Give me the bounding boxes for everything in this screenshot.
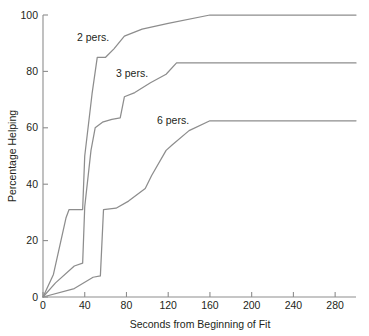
y-tick-label: 80 bbox=[26, 65, 38, 77]
y-tick-label: 20 bbox=[26, 234, 38, 246]
series-label: 6 pers. bbox=[157, 114, 189, 126]
x-tick-label: 160 bbox=[201, 299, 219, 311]
x-tick-label: 240 bbox=[285, 299, 303, 311]
x-tick-label: 200 bbox=[243, 299, 261, 311]
x-tick-label: 40 bbox=[79, 299, 91, 311]
x-tick-label: 120 bbox=[159, 299, 177, 311]
x-tick-label: 280 bbox=[326, 299, 344, 311]
series-label: 3 pers. bbox=[116, 67, 148, 79]
chart-figure: 020406080100 Percentage Helping 04080120… bbox=[0, 0, 369, 336]
y-axis-title: Percentage Helping bbox=[6, 110, 18, 202]
series-label: 2 pers. bbox=[77, 31, 109, 43]
chart-background bbox=[0, 0, 369, 336]
x-tick-label: 0 bbox=[40, 299, 46, 311]
y-tick-label: 100 bbox=[20, 9, 38, 21]
x-axis-title: Seconds from Beginning of Fit bbox=[130, 318, 271, 330]
y-tick-label: 0 bbox=[32, 291, 38, 303]
y-tick-label: 40 bbox=[26, 178, 38, 190]
x-tick-label: 80 bbox=[121, 299, 133, 311]
y-tick-label: 60 bbox=[26, 121, 38, 133]
